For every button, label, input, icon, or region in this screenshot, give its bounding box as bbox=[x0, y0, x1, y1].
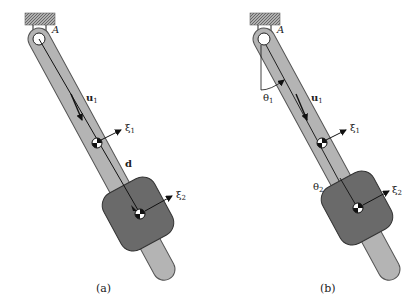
theta1-label: θ1 bbox=[263, 92, 274, 105]
xi2-label: ξ2 bbox=[392, 184, 402, 197]
theta2-label: θ2 bbox=[313, 181, 324, 194]
u1-label: u1 bbox=[311, 92, 323, 105]
panel-a: A u1 d ξ1 ξ2 (a) bbox=[24, 13, 186, 295]
wall-support bbox=[25, 13, 55, 25]
wall-support bbox=[250, 13, 280, 25]
collar-center-of-mass-icon bbox=[353, 203, 363, 213]
pivot-label: A bbox=[276, 24, 284, 35]
pivot-pin bbox=[258, 33, 270, 45]
d-label: d bbox=[125, 158, 132, 169]
panel-b: A θ1 u1 θ2 ξ1 ξ2 (b) bbox=[249, 13, 404, 295]
rod-center-of-mass-icon bbox=[92, 138, 102, 148]
displacement-line bbox=[39, 39, 138, 210]
u1-label: u1 bbox=[86, 92, 98, 105]
xi1-label: ξ1 bbox=[350, 122, 360, 135]
rod-center-of-mass-icon bbox=[317, 138, 327, 148]
rod bbox=[249, 24, 404, 284]
pivot-label: A bbox=[51, 24, 59, 35]
xi2-label: ξ2 bbox=[176, 189, 186, 202]
caption-b: (b) bbox=[320, 282, 336, 295]
pendulum-diagram: A u1 d ξ1 ξ2 (a) bbox=[0, 0, 418, 307]
xi1-label: ξ1 bbox=[125, 122, 135, 135]
rod bbox=[24, 24, 179, 284]
caption-a: (a) bbox=[96, 282, 111, 295]
